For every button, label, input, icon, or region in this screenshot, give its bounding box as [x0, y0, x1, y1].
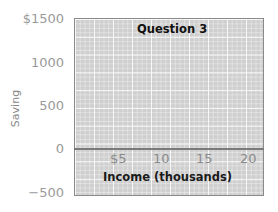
y-tick-1500: $1500 [23, 12, 64, 25]
x-tick-10: 10 [153, 152, 170, 165]
y-tick-500: 500 [39, 99, 64, 112]
x-tick-20: 20 [240, 152, 257, 165]
x-axis-label: Income (thousands) [103, 170, 232, 184]
chart-title: Question 3 [137, 22, 207, 36]
y-tick-1000: 1000 [31, 56, 64, 69]
zero-axis-line [74, 148, 264, 150]
y-axis-label: Saving [9, 84, 22, 134]
y-tick-0: 0 [56, 142, 64, 155]
y-tick-neg500: −500 [28, 186, 64, 199]
x-tick-5: $5 [110, 152, 127, 165]
x-tick-15: 15 [196, 152, 213, 165]
